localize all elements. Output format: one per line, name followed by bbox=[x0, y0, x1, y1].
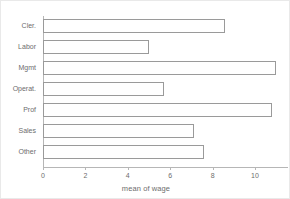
x-tick-mark bbox=[85, 167, 86, 170]
bar-chart-figure: Cler.LaborMgmtOperat.ProfSalesOther 0246… bbox=[0, 0, 290, 199]
x-tick-label: 8 bbox=[201, 172, 225, 179]
x-tick-mark bbox=[128, 167, 129, 170]
category-label: Prof bbox=[0, 103, 36, 117]
bar-rect bbox=[43, 124, 194, 138]
bar-rect bbox=[43, 61, 276, 75]
category-label: Other bbox=[0, 145, 36, 159]
x-tick-label: 10 bbox=[243, 172, 267, 179]
bar-rect bbox=[43, 82, 164, 96]
x-tick-label: 6 bbox=[158, 172, 182, 179]
x-tick-label: 4 bbox=[116, 172, 140, 179]
bar-rect bbox=[43, 19, 225, 33]
category-label: Operat. bbox=[0, 82, 36, 96]
bar-rect bbox=[43, 103, 272, 117]
category-label: Sales bbox=[0, 124, 36, 138]
bar-rect bbox=[43, 145, 204, 159]
x-axis-title: mean of wage bbox=[1, 184, 290, 193]
x-tick-mark bbox=[43, 167, 44, 170]
category-label: Cler. bbox=[0, 19, 36, 33]
category-label: Labor bbox=[0, 40, 36, 54]
x-tick-mark bbox=[255, 167, 256, 170]
category-label: Mgmt bbox=[0, 61, 36, 75]
x-axis-line bbox=[43, 167, 288, 168]
x-tick-mark bbox=[170, 167, 171, 170]
x-tick-label: 2 bbox=[73, 172, 97, 179]
bar-rect bbox=[43, 40, 149, 54]
x-tick-mark bbox=[213, 167, 214, 170]
x-tick-label: 0 bbox=[31, 172, 55, 179]
